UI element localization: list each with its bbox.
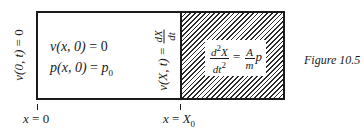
fraction-dX-dt: dX dt <box>152 29 177 43</box>
equation-of-motion: d2X dt2 = A m p <box>205 40 266 76</box>
boundary-condition-right: v(X, t) = dX dt <box>152 15 177 105</box>
fraction-A-m: A m <box>245 46 255 71</box>
x-label-origin: x = 0 <box>23 111 49 127</box>
boundary-condition-left: v(0, t) = 0 <box>11 10 27 100</box>
initial-condition-pressure: p(x, 0) = p0 <box>50 59 113 82</box>
x-label-piston: x = X0 <box>163 111 195 129</box>
figure-caption: Figure 10.5 <box>304 53 360 68</box>
initial-condition-velocity: v(x, 0) = 0 <box>50 38 108 55</box>
tick-mark-x0 <box>37 104 38 110</box>
fraction-d2X-dt2: d2X dt2 <box>210 42 229 74</box>
tick-mark-X0 <box>180 104 181 110</box>
